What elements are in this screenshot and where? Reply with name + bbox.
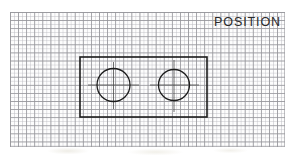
centerlines-group: [88, 60, 199, 112]
drawing-canvas: POSITION: [0, 0, 295, 160]
rectangular-plate: [80, 57, 207, 117]
position-title-label: POSITION: [214, 15, 281, 29]
plate-group: [80, 57, 207, 117]
